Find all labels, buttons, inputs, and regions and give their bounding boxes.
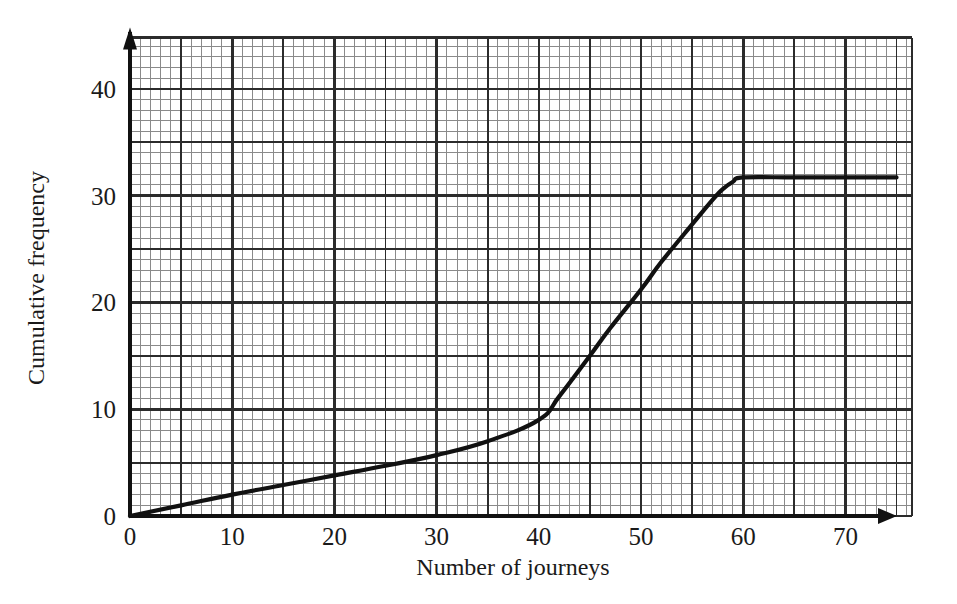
x-axis-title: Number of journeys — [416, 554, 609, 580]
y-axis-title: Cumulative frequency — [23, 171, 49, 385]
x-tick-label: 10 — [220, 523, 245, 550]
x-tick-label: 0 — [124, 523, 137, 550]
y-tick-label: 40 — [91, 76, 116, 103]
x-tick-label: 40 — [526, 523, 551, 550]
x-tick-label: 20 — [322, 523, 347, 550]
chart-figure: 010203040506070 010203040 Number of jour… — [0, 0, 957, 604]
y-tick-label: 30 — [91, 183, 116, 210]
cumulative-frequency-chart: 010203040506070 010203040 Number of jour… — [0, 0, 957, 604]
x-tick-label: 70 — [833, 523, 858, 550]
x-tick-label: 50 — [629, 523, 654, 550]
y-tick-label: 20 — [91, 289, 116, 316]
y-tick-label: 10 — [91, 396, 116, 423]
x-tick-label: 30 — [424, 523, 449, 550]
x-tick-label: 60 — [731, 523, 756, 550]
y-tick-label: 0 — [104, 503, 117, 530]
